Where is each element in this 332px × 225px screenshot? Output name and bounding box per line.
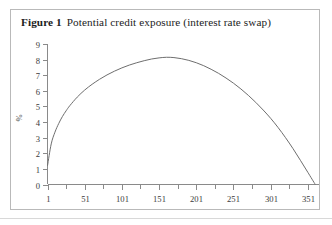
figure-label: Figure 1: [21, 16, 62, 28]
x-tick-label: 51: [81, 194, 90, 204]
y-tick-label: 5: [36, 102, 40, 112]
y-tick-label: 8: [36, 56, 40, 66]
x-tick-label: 251: [227, 194, 240, 204]
chart-plot-area: 0123456789 151101151201251301351 %: [11, 36, 321, 211]
y-axis-title: %: [14, 114, 24, 121]
y-tick-label: 2: [36, 149, 40, 159]
line-chart: 0123456789 151101151201251301351 %: [11, 36, 321, 211]
bottom-divider: [0, 218, 332, 219]
y-tick-label: 0: [36, 181, 40, 191]
x-tick-label: 1: [46, 194, 50, 204]
y-tick-label: 9: [36, 40, 40, 50]
y-tick-label: 4: [36, 118, 41, 128]
x-tick-label: 101: [116, 194, 129, 204]
y-tick-label: 3: [36, 134, 40, 144]
y-axis-ticks: 0123456789: [36, 40, 48, 191]
x-tick-label: 151: [153, 194, 166, 204]
figure-caption-text: Potential credit exposure (interest rate…: [67, 16, 271, 28]
y-tick-label: 7: [36, 71, 41, 81]
x-tick-label: 301: [265, 194, 278, 204]
x-axis-ticks: [49, 185, 309, 191]
x-axis-tick-labels: 151101151201251301351: [46, 194, 315, 204]
exposure-curve-line: [48, 57, 316, 184]
x-tick-label: 201: [190, 194, 203, 204]
y-tick-label: 6: [36, 87, 41, 97]
figure-container: Figure 1Potential credit exposure (inter…: [10, 9, 320, 210]
y-tick-label: 1: [36, 165, 40, 175]
x-tick-label: 351: [302, 194, 315, 204]
figure-caption: Figure 1Potential credit exposure (inter…: [21, 16, 271, 28]
